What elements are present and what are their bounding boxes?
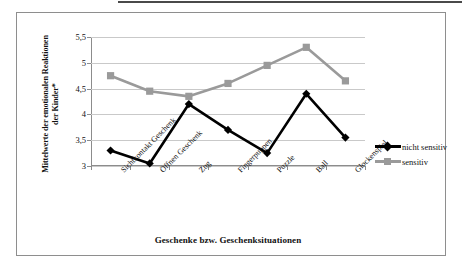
- y-tick-label: 5: [82, 58, 86, 68]
- y-tick-label: 3: [82, 161, 86, 171]
- x-axis-label: Öffnen Geschenk: [158, 168, 164, 174]
- x-axis-label: Fingerpuppen: [236, 168, 242, 174]
- legend-item[interactable]: nicht sensitiv: [375, 139, 461, 154]
- x-axis-label: Glockenspiel: [353, 168, 359, 174]
- x-axis-label: Sichtkontakt Geschenk: [119, 168, 125, 174]
- chart-frame: Mittelwerte der emotionalen Reaktionen d…: [16, 12, 446, 256]
- data-point-marker: [106, 146, 114, 154]
- x-axis-title: Geschenke bzw. Geschenksituationen: [91, 235, 365, 245]
- legend-label: nicht sensitiv: [402, 142, 447, 152]
- y-tick-label: 4,5: [75, 84, 86, 94]
- y-tick-label: 4: [82, 109, 86, 119]
- legend-marker-icon: [383, 142, 393, 152]
- x-axis-label: Puzzle: [275, 168, 281, 174]
- figure-container: Mittelwerte der emotionalen Reaktionen d…: [0, 0, 462, 274]
- data-point-marker: [146, 88, 153, 95]
- x-axis-label: Zug: [197, 168, 203, 174]
- legend-swatch-diamond-icon: [375, 141, 401, 152]
- plot-area: 33,544,555,5: [91, 37, 365, 166]
- data-point-marker: [342, 77, 349, 84]
- series-line-sensitiv: [111, 47, 346, 96]
- x-axis-label: Ball: [314, 168, 320, 174]
- legend-swatch-square-icon: [375, 156, 401, 167]
- y-tick-label: 5,5: [75, 32, 86, 42]
- legend-label: sensitiv: [402, 157, 428, 167]
- legend-item[interactable]: sensitiv: [375, 154, 461, 169]
- y-axis-title: Mittelwerte der emotionalen Reaktionen d…: [41, 29, 63, 179]
- data-series-layer: [91, 37, 365, 166]
- x-axis-category-labels: Sichtkontakt GeschenkÖffnen GeschenkZugF…: [91, 168, 365, 228]
- chart-legend: nicht sensitivsensitiv: [375, 139, 461, 169]
- data-point-marker: [264, 62, 271, 69]
- legend-marker-icon: [384, 158, 391, 165]
- data-point-marker: [303, 44, 310, 51]
- data-point-marker: [107, 72, 114, 79]
- scan-top-rule: [118, 1, 462, 3]
- y-tick-label: 3,5: [75, 135, 86, 145]
- data-point-marker: [185, 93, 192, 100]
- data-point-marker: [224, 80, 231, 87]
